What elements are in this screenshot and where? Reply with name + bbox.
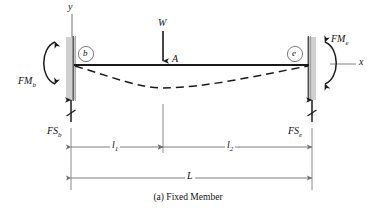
y-axis-label: y <box>68 2 72 12</box>
dimension-label-l1: l1 <box>110 140 120 153</box>
fixed-end-shear-b-arrow <box>67 100 76 122</box>
dimension-l1-subscript: 1 <box>115 145 119 153</box>
fixed-end-shear-e-subscript: e <box>299 131 302 139</box>
x-axis-label: x <box>359 57 363 67</box>
fixed-end-moment-b-subscript: b <box>32 81 36 89</box>
fixed-end-shear-e-symbol: FS <box>288 125 299 136</box>
fixed-end-moment-b-label: FMb <box>18 76 36 89</box>
point-label-a: A <box>172 54 178 64</box>
fixed-end-moment-e-arc <box>325 42 336 84</box>
fixed-end-shear-e-arrow <box>308 100 317 122</box>
right-wall-support <box>307 36 316 101</box>
figure-caption: (a) Fixed Member <box>0 192 376 202</box>
fixed-end-moment-b-symbol: FM <box>18 75 32 86</box>
fixed-end-shear-e-label: FSe <box>288 126 302 139</box>
fixed-end-moment-e-subscript: e <box>345 39 348 47</box>
dimension-label-L: L <box>185 171 195 181</box>
node-label-e: e <box>292 49 296 58</box>
fixed-member-figure: y x b e W A FMb FMe FSb FSe l1 l2 L (a) … <box>0 0 376 210</box>
applied-load-label: W <box>158 18 166 28</box>
fixed-end-shear-b-symbol: FS <box>47 125 58 136</box>
fixed-end-shear-b-subscript: b <box>58 131 62 139</box>
dimension-l2-subscript: 2 <box>230 145 234 153</box>
fixed-end-moment-b-arc <box>44 42 55 84</box>
fixed-end-moment-e-symbol: FM <box>331 33 345 44</box>
left-wall-support <box>66 36 75 101</box>
fixed-end-moment-e-label: FMe <box>331 34 349 47</box>
fixed-end-shear-b-label: FSb <box>47 126 62 139</box>
deflection-curve <box>75 66 308 88</box>
node-label-b: b <box>83 49 88 58</box>
dimension-label-l2: l2 <box>225 140 235 153</box>
